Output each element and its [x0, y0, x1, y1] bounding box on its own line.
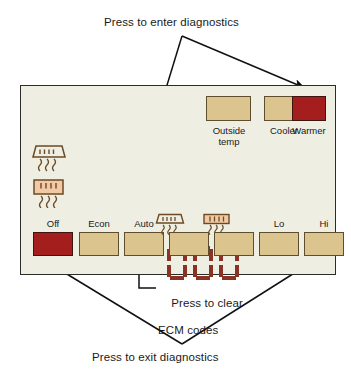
callout-clear-ecm-codes: Press to clear ECM codes	[158, 283, 243, 364]
button-auto[interactable]	[124, 232, 164, 256]
arrow-enter-to-warmer	[182, 36, 305, 88]
label-off: Off	[29, 218, 77, 229]
front-defrost-indicator-icon	[31, 178, 67, 208]
button-off[interactable]	[33, 232, 73, 256]
label-hi: Hi	[300, 218, 348, 229]
label-warmer: Warmer	[281, 125, 337, 136]
button-lo[interactable]	[259, 232, 299, 256]
button-econ[interactable]	[79, 232, 119, 256]
button-front-defrost[interactable]	[214, 232, 254, 256]
climate-control-panel: Outside temp Cooler Warmer	[20, 85, 336, 275]
button-warmer[interactable]	[292, 96, 326, 121]
button-rear-defrost[interactable]	[169, 232, 209, 256]
label-lo: Lo	[255, 218, 303, 229]
callout-clear-line2: ECM codes	[158, 324, 243, 338]
callout-clear-line1: Press to clear	[171, 297, 243, 309]
callout-enter-diagnostics: Press to enter diagnostics	[104, 16, 239, 30]
diagnostics-diagram: Press to enter diagnostics Press to exit…	[0, 0, 351, 387]
label-outside-temp: Outside temp	[197, 125, 261, 147]
button-hi[interactable]	[304, 232, 344, 256]
rear-defrost-indicator-icon	[31, 144, 67, 174]
label-econ: Econ	[75, 218, 123, 229]
button-outside-temp[interactable]	[206, 96, 251, 121]
